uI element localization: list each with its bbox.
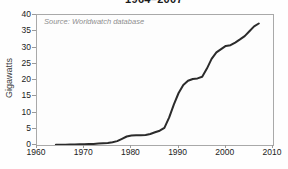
x-tick-mark xyxy=(272,145,273,148)
chart-canvas: 1964–2007 Gigawatts Source: Worldwatch d… xyxy=(0,0,288,169)
y-tick-label: 35 xyxy=(0,25,31,35)
x-tick-label: 1970 xyxy=(66,147,100,157)
x-tick-mark xyxy=(225,145,226,148)
x-tick-mark xyxy=(83,145,84,148)
x-tick-label: 2010 xyxy=(255,147,288,157)
y-tick-mark xyxy=(32,128,36,129)
capacity-line xyxy=(56,24,259,145)
y-tick-mark xyxy=(32,63,36,64)
y-tick-mark xyxy=(32,95,36,96)
y-tick-mark xyxy=(32,30,36,31)
x-tick-mark xyxy=(178,145,179,148)
y-tick-label: 20 xyxy=(0,74,31,84)
y-tick-label: 5 xyxy=(0,123,31,133)
y-tick-label: 15 xyxy=(0,90,31,100)
x-tick-mark xyxy=(130,145,131,148)
chart-title: 1964–2007 xyxy=(36,0,272,5)
plot-area: Source: Worldwatch database xyxy=(36,14,274,146)
y-tick-label: 10 xyxy=(0,107,31,117)
y-tick-mark xyxy=(32,47,36,48)
data-line-svg xyxy=(37,15,273,145)
y-tick-label: 30 xyxy=(0,42,31,52)
y-tick-label: 25 xyxy=(0,58,31,68)
source-note: Source: Worldwatch database xyxy=(44,17,144,26)
y-tick-mark xyxy=(32,14,36,15)
y-tick-label: 40 xyxy=(0,9,31,19)
x-tick-label: 1990 xyxy=(161,147,195,157)
x-tick-mark xyxy=(36,145,37,148)
x-tick-label: 2000 xyxy=(208,147,242,157)
x-tick-label: 1980 xyxy=(113,147,147,157)
x-tick-label: 1960 xyxy=(19,147,53,157)
y-tick-mark xyxy=(32,79,36,80)
y-tick-mark xyxy=(32,112,36,113)
